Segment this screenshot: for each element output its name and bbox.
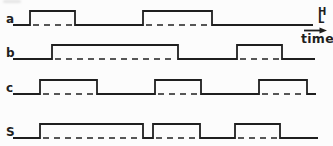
- time-axis-label: time: [301, 31, 333, 46]
- waveform-row-c: c: [6, 80, 316, 95]
- timing-diagram-figure: abcS H L time: [0, 0, 333, 146]
- signal-S-label: S: [6, 125, 15, 139]
- signal-c-trace: [13, 80, 316, 94]
- waveform-row-S: S: [6, 124, 318, 139]
- signal-b-label: b: [6, 46, 15, 60]
- waveforms: abcS: [6, 11, 318, 139]
- timing-diagram: abcS H L time: [0, 0, 333, 146]
- signal-c-label: c: [6, 81, 13, 95]
- waveform-row-a: a: [6, 11, 313, 26]
- scan-artifact: [3, 0, 21, 3]
- waveform-row-b: b: [6, 45, 315, 60]
- low-level-label: L: [318, 14, 325, 25]
- signal-a-trace: [13, 11, 313, 25]
- signal-S-trace: [13, 124, 318, 138]
- axis-annotations: H L time: [301, 6, 333, 46]
- signal-b-trace: [13, 45, 315, 59]
- signal-a-label: a: [6, 12, 14, 26]
